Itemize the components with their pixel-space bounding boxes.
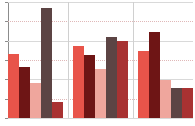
- y-tick: [5, 2, 8, 3]
- bar: [19, 67, 30, 118]
- bar: [41, 8, 52, 118]
- y-tick: [5, 21, 8, 22]
- plot-area: [8, 2, 193, 118]
- bar-chart: [0, 0, 195, 126]
- bar: [182, 88, 193, 118]
- y-tick: [5, 41, 8, 42]
- bar: [149, 32, 160, 118]
- y-tick: [5, 99, 8, 100]
- bar: [138, 51, 149, 118]
- bar: [95, 69, 106, 118]
- gridline: [8, 118, 193, 119]
- bar: [52, 102, 63, 118]
- bar: [84, 55, 95, 118]
- bar: [117, 41, 128, 118]
- y-axis-ticks: [8, 2, 9, 118]
- bar: [73, 46, 84, 118]
- bars-layer: [8, 2, 193, 118]
- bar: [171, 88, 182, 118]
- y-tick: [5, 118, 8, 119]
- bar: [160, 80, 171, 118]
- bar: [106, 37, 117, 118]
- y-tick: [5, 79, 8, 80]
- bar: [8, 54, 19, 118]
- bar: [30, 83, 41, 118]
- y-tick: [5, 60, 8, 61]
